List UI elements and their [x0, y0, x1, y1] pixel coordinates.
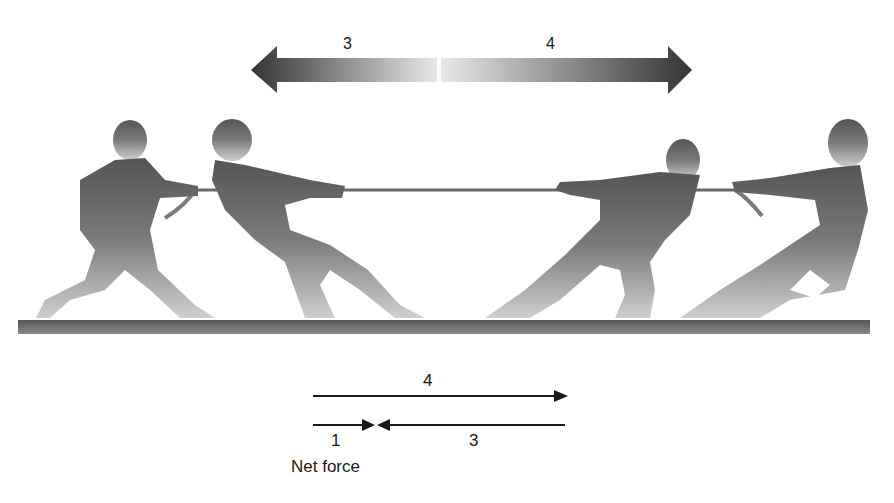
figure-right-back	[680, 119, 868, 318]
ground	[18, 320, 870, 334]
left-force-arrow	[251, 46, 437, 93]
figure-left-front	[212, 119, 425, 318]
figure-right-front	[485, 139, 700, 318]
leftward-force-label: 3	[469, 432, 478, 449]
net-force-vector	[313, 419, 375, 431]
net-force-caption: Net force	[291, 458, 360, 475]
leftward-force-vector	[377, 419, 565, 431]
right-force-label: 4	[546, 36, 555, 52]
net-force-value-label: 1	[331, 432, 340, 449]
figure-left-back	[36, 120, 215, 318]
tug-of-war-illustration	[0, 0, 894, 503]
right-force-arrow	[441, 46, 692, 94]
rightward-force-label: 4	[423, 372, 432, 389]
left-force-label: 3	[343, 36, 352, 52]
rightward-force-vector	[313, 390, 568, 402]
